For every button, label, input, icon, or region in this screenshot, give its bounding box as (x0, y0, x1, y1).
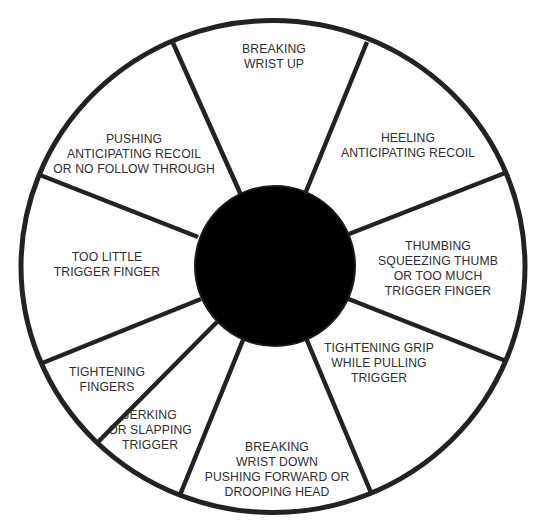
segment-tightening-grip: TIGHTENING GRIP WHILE PULLING TRIGGER (324, 341, 434, 386)
segment-line: TOO LITTLE (54, 250, 160, 265)
segment-pushing: PUSHING ANTICIPATING RECOIL OR NO FOLLOW… (53, 132, 215, 177)
segment-line: SQUEEZING THUMB (378, 254, 498, 269)
segment-line: TRIGGER (324, 371, 434, 386)
center-bullseye (195, 186, 355, 346)
segment-line: WRIST DOWN (205, 455, 350, 470)
segment-line: PUSHING (53, 132, 215, 147)
segment-line: DROOPING HEAD (205, 485, 350, 500)
segment-line: JERKING (108, 408, 192, 423)
segment-line: PUSHING FORWARD OR (205, 470, 350, 485)
segment-breaking-wrist-up: BREAKING WRIST UP (242, 42, 306, 72)
spoke-too-little-pushing (40, 175, 198, 237)
segment-line: THUMBING (378, 239, 498, 254)
segment-line: TRIGGER (108, 438, 192, 453)
segment-line: TRIGGER FINGER (378, 284, 498, 299)
segment-thumbing: THUMBING SQUEEZING THUMB OR TOO MUCH TRI… (378, 239, 498, 299)
spoke-heeling-thumbing (349, 173, 505, 234)
segment-line: ANTICIPATING RECOIL (341, 146, 475, 161)
segment-line: ANTICIPATING RECOIL (53, 147, 215, 162)
segment-too-little-trigger-finger: TOO LITTLE TRIGGER FINGER (54, 250, 160, 280)
segment-line: WRIST UP (242, 57, 306, 72)
segment-line: HEELING (341, 131, 475, 146)
segment-line: WHILE PULLING (324, 356, 434, 371)
segment-line: OR SLAPPING (108, 423, 192, 438)
spoke-tightening-fingers-too-little (40, 299, 201, 364)
segment-line: OR NO FOLLOW THROUGH (53, 162, 215, 177)
segment-breaking-wrist-down: BREAKING WRIST DOWN PUSHING FORWARD OR D… (205, 440, 350, 500)
segment-jerking: JERKING OR SLAPPING TRIGGER (108, 408, 192, 453)
segment-line: FINGERS (69, 380, 145, 395)
spoke-breaking-up-heeling (305, 42, 367, 194)
segment-heeling: HEELING ANTICIPATING RECOIL (341, 131, 475, 161)
segment-line: TRIGGER FINGER (54, 265, 160, 280)
segment-tightening-fingers: TIGHTENING FINGERS (69, 365, 145, 395)
segment-line: TIGHTENING (69, 365, 145, 380)
segment-line: TIGHTENING GRIP (324, 341, 434, 356)
segment-line: BREAKING (242, 42, 306, 57)
segment-line: BREAKING (205, 440, 350, 455)
segment-line: OR TOO MUCH (378, 269, 498, 284)
